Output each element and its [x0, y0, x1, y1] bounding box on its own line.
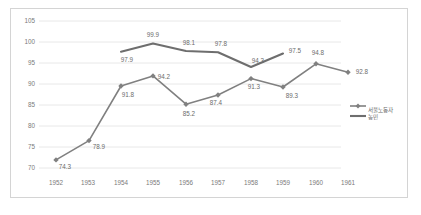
x-axis: 1952 1953 1954 1955 1956 1957 1958 1959 … [49, 179, 356, 186]
x-tick-label: 1956 [179, 179, 194, 186]
x-tick-label: 1953 [81, 179, 96, 186]
data-label: 74.3 [59, 163, 72, 170]
x-tick-label: 1952 [49, 179, 64, 186]
data-label: 85.2 [183, 110, 196, 117]
x-tick-label: 1959 [276, 179, 291, 186]
data-label: 97.5 [289, 47, 302, 54]
y-tick-label: 90 [28, 80, 36, 87]
data-point-marker [345, 70, 350, 75]
chart-legend: 서울노동자 농민 [350, 104, 393, 120]
data-label: 97.9 [121, 56, 134, 63]
y-tick-label: 80 [28, 122, 36, 129]
x-tick-label: 1958 [244, 179, 259, 186]
legend-item-nongmin[interactable]: 농민 [350, 113, 378, 120]
caption-strip [18, 203, 348, 211]
data-label: 94.8 [312, 49, 325, 56]
data-label: 91.3 [248, 83, 261, 90]
x-tick-label: 1960 [309, 179, 324, 186]
data-label: 94.3 [252, 57, 265, 64]
data-point-marker [215, 92, 220, 97]
data-labels-seoul-worker: 74.3 78.9 91.8 94.2 85.2 87.4 91.3 89.3 … [59, 49, 369, 170]
y-tick-label: 100 [24, 38, 35, 45]
x-tick-label: 1955 [146, 179, 161, 186]
x-tick-label: 1961 [341, 179, 356, 186]
line-chart: 105 100 95 90 85 80 75 70 1952 1953 1954… [11, 9, 407, 197]
data-point-marker [248, 76, 253, 81]
x-tick-label: 1954 [114, 179, 129, 186]
legend-item-seoul-worker[interactable]: 서울노동자 [350, 104, 393, 115]
y-tick-label: 105 [24, 17, 35, 24]
data-label: 91.8 [122, 91, 135, 98]
data-label: 87.4 [210, 99, 223, 106]
data-label: 99.9 [147, 31, 160, 38]
data-label: 89.3 [286, 92, 299, 99]
x-tick-label: 1957 [211, 179, 226, 186]
data-label: 94.2 [158, 73, 171, 80]
data-label: 98.1 [183, 39, 196, 46]
legend-label: 농민 [368, 113, 378, 120]
chart-container: 105 100 95 90 85 80 75 70 1952 1953 1954… [10, 8, 408, 198]
y-tick-label: 95 [28, 59, 36, 66]
y-tick-label: 85 [28, 101, 36, 108]
data-label: 78.9 [93, 143, 106, 150]
y-tick-label: 70 [28, 164, 36, 171]
y-tick-label: 75 [28, 143, 36, 150]
data-label: 97.8 [215, 40, 228, 47]
legend-diamond-marker-icon [356, 104, 361, 109]
data-labels-nongmin: 97.9 99.9 98.1 97.8 94.3 97.5 [121, 31, 302, 64]
y-axis: 105 100 95 90 85 80 75 70 [24, 17, 35, 171]
data-label: 92.8 [356, 68, 369, 75]
